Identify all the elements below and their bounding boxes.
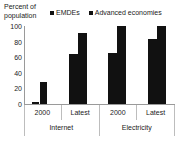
bar-electricity-latest-advanced[interactable] <box>157 26 166 104</box>
legend-item-advanced-economies[interactable]: Advanced economies <box>89 8 162 17</box>
y-tick-label: 100 <box>2 23 22 30</box>
bar-electricity-2000-advanced[interactable] <box>117 26 126 104</box>
legend-item-emdes[interactable]: EMDEs <box>50 8 80 17</box>
square-marker-icon <box>89 11 93 15</box>
x-group-label-electricity: Electricity <box>100 120 176 136</box>
x-tick-label: 2000 <box>100 105 138 120</box>
y-tick-label: 20 <box>2 85 22 92</box>
x-group-label-internet: Internet <box>24 120 100 136</box>
bar-internet-latest-advanced[interactable] <box>78 33 87 104</box>
y-tick-label: 60 <box>2 54 22 61</box>
x-axis-group-row: Internet Electricity <box>24 120 175 136</box>
bar-internet-2000-advanced[interactable] <box>40 82 47 104</box>
y-tick-label: 40 <box>2 70 22 77</box>
plot-area <box>24 26 175 104</box>
y-tick-label: 80 <box>2 39 22 46</box>
y-axis-ticks: 100 80 60 40 20 0 <box>0 0 22 141</box>
x-tick-label: Latest <box>137 105 175 120</box>
legend-label: EMDEs <box>56 8 80 17</box>
legend-label: Advanced economies <box>95 8 162 17</box>
bar-electricity-2000-emdes[interactable] <box>108 53 117 104</box>
y-tick-label: 0 <box>2 101 22 108</box>
chart-container: Percent of population EMDEs Advanced eco… <box>0 0 179 141</box>
bar-internet-latest-emdes[interactable] <box>69 54 78 104</box>
square-marker-icon <box>50 11 54 15</box>
x-tick-label: 2000 <box>24 105 62 120</box>
x-tick-label: Latest <box>62 105 100 120</box>
bar-electricity-latest-emdes[interactable] <box>148 39 157 104</box>
x-axis-category-row: 2000 Latest 2000 Latest <box>24 105 175 120</box>
bar-internet-2000-emdes[interactable] <box>32 102 39 104</box>
chart-legend: EMDEs Advanced economies <box>50 8 162 17</box>
